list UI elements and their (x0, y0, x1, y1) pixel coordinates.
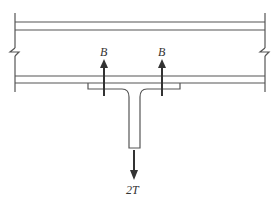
bolt-force-label-left: B (100, 45, 108, 59)
break-mark-left (10, 48, 19, 56)
tee-connection-diagram: B B 2T (0, 0, 278, 205)
load-label: 2T (126, 183, 140, 197)
bolt-force-label-right: B (158, 45, 166, 59)
break-mark-right (260, 48, 269, 56)
tee-section (88, 83, 180, 148)
